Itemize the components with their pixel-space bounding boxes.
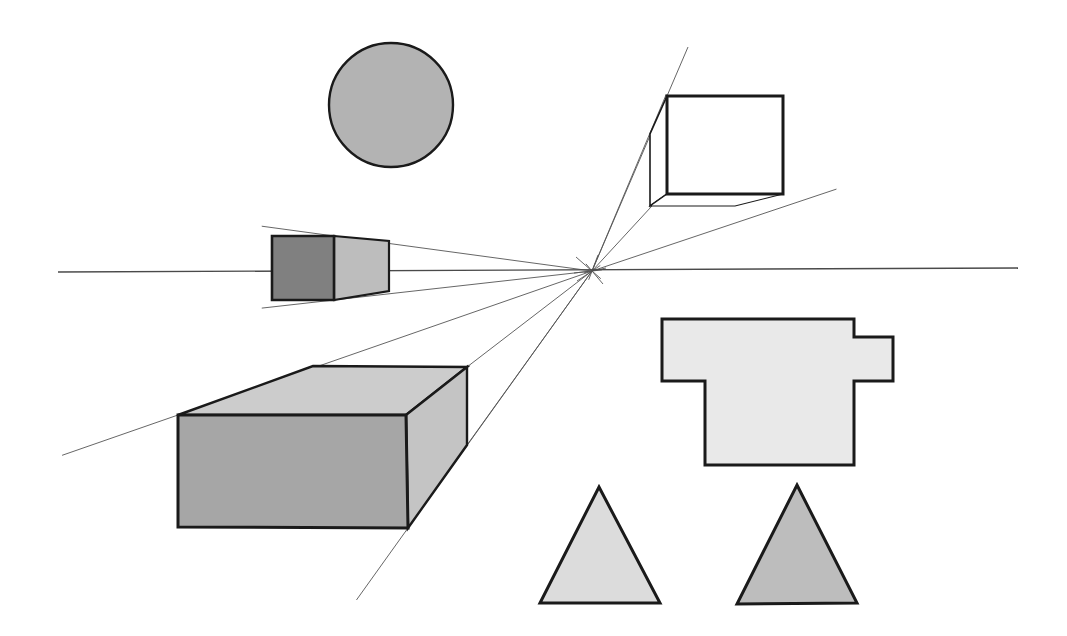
perspective-scene [0,0,1067,636]
small-box-side-face [334,236,389,300]
drawing-canvas [0,0,1067,636]
small-box-shape [272,236,389,300]
small-box-front-face [272,236,334,300]
circle-shape [329,43,453,167]
cube-shape [650,96,783,206]
canvas-background [0,0,1067,636]
cube-front-face [667,96,783,194]
large-box-front-face [178,415,408,528]
